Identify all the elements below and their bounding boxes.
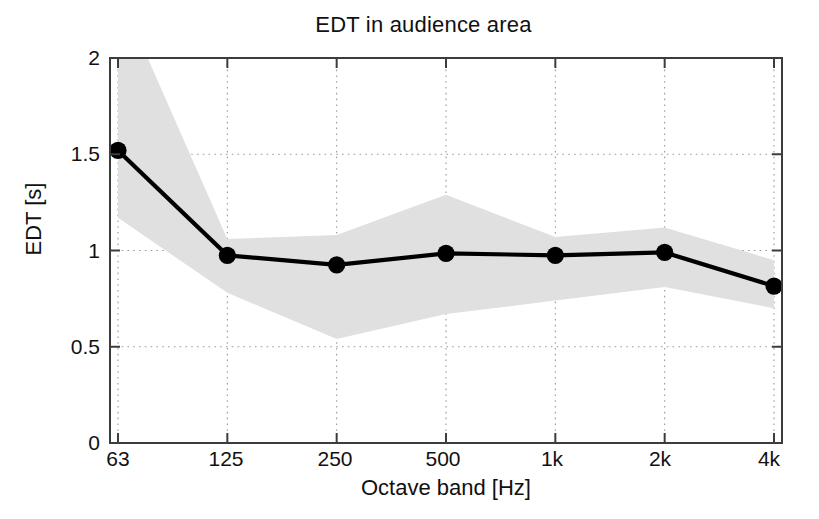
y-axis-label: EDT [s] (21, 139, 47, 299)
plot-area (0, 0, 819, 519)
data-point (765, 278, 782, 295)
xtick-label-500: 500 (403, 447, 483, 471)
xtick-label-63: 63 (78, 447, 158, 471)
x-axis-label: Octave band [Hz] (110, 475, 782, 501)
data-point (109, 142, 126, 159)
data-point (547, 247, 564, 264)
xtick-label-4k: 4k (729, 447, 809, 471)
xtick-label-1k: 1k (512, 447, 592, 471)
ytick-label-0_5: 0.5 (34, 335, 100, 359)
chart-figure: EDT in audience area (0, 0, 819, 519)
xtick-label-250: 250 (295, 447, 375, 471)
data-point (328, 256, 345, 273)
data-point (656, 244, 673, 261)
ytick-label-2: 2 (34, 46, 100, 70)
xtick-label-2k: 2k (620, 447, 700, 471)
data-point (437, 245, 454, 262)
data-point (219, 247, 236, 264)
xtick-label-125: 125 (186, 447, 266, 471)
